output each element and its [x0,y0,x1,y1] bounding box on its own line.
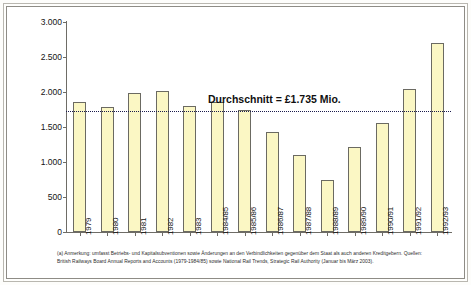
y-axis-tick-mark [63,57,66,58]
y-axis-tick-label: 0 [57,227,62,237]
x-axis-tick-label-text: 1989/90 [359,207,368,235]
bar-1982 [156,91,169,232]
y-axis-tick-mark [63,92,66,93]
chart-figure: Staatliche Unterstützung (Subventionen p… [0,0,471,285]
y-axis-tick-mark [63,127,66,128]
x-axis-tick-label-text: 1990/91 [386,207,395,235]
plot-area: 05001.0001.5002.0002.5003.000Durchschnit… [66,22,451,232]
x-axis-tick-label-text: 1984/85 [221,207,230,235]
x-axis-tick-label-text: 1986/87 [276,207,285,235]
y-axis-tick-label: 2.500 [41,52,62,62]
bar-1992-93 [431,43,444,232]
x-axis-tick-label-text: 1992/93 [441,207,450,235]
y-axis-tick-mark [63,22,66,23]
bar-1979 [73,102,86,232]
x-axis-tick-label-text: 1982 [166,218,175,235]
x-axis-tick-label-text: 1981 [139,218,148,235]
y-axis-tick-mark [63,162,66,163]
y-axis-tick-label: 1.500 [41,122,62,132]
y-axis-tick-label: 2.000 [41,87,62,97]
average-line [66,111,451,112]
bar-1983 [183,106,196,232]
bar-1981 [128,93,141,232]
x-axis-tick-label-text: 1991/92 [414,207,423,235]
y-axis-tick-label: 1.000 [41,157,62,167]
x-axis-tick-label-text: 1979 [84,218,93,235]
x-axis-tick-label-text: 1985/86 [249,207,258,235]
footnote: (a) Anmerkung: umfasst Betriebs- und Kap… [57,250,425,266]
x-axis-tick-label-text: 1988/89 [331,207,340,235]
x-axis-tick-label-text: 1987/88 [304,207,313,235]
x-axis-tick-label-text: 1983 [194,218,203,235]
y-axis-tick-label: 500 [48,192,62,202]
y-axis-tick-mark [63,197,66,198]
average-line-label: Durchschnitt = £1.735 Mio. [208,93,341,105]
x-axis-tick-label-text: 1980 [111,218,120,235]
bar-1980 [101,107,114,232]
x-axis-tick-label: 1992/93 [432,234,442,280]
y-axis-tick-label: 3.000 [41,17,62,27]
y-axis-tick-mark [63,232,66,233]
